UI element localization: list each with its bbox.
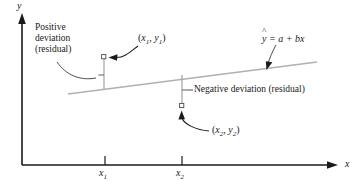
data-point-1-marker (102, 55, 106, 59)
hat-accent: ^ (262, 27, 266, 36)
point-1-close-paren: ) (162, 32, 165, 43)
equation-rest: = a + bx (266, 33, 304, 44)
positive-deviation-leader (57, 62, 96, 79)
positive-deviation-line-2: deviation (35, 33, 71, 44)
equation-leader (268, 45, 276, 63)
data-point-2-label: (x2, y2) (212, 124, 240, 138)
y-axis-arrowhead (18, 13, 26, 24)
tick-label-x2: x2 (176, 167, 184, 181)
tick-label-x1: x1 (99, 167, 107, 181)
x-axis-label: x (345, 158, 349, 170)
data-point-2-marker (180, 103, 184, 107)
positive-deviation-line-1: Positive (35, 22, 71, 33)
y-hat-symbol: ^y (262, 33, 266, 45)
tick-label-x1-sub: 1 (103, 173, 107, 181)
negative-deviation-annotation: Negative deviation (residual) (194, 84, 305, 95)
point-1-arrowhead (109, 54, 118, 61)
positive-deviation-annotation: Positive deviation (residual) (35, 22, 71, 56)
regression-equation-label: ^y = a + bx (262, 33, 304, 45)
x-axis-arrowhead (327, 161, 338, 169)
point-1-arrow (116, 46, 138, 58)
data-point-1-label: (x1, y1) (138, 32, 166, 46)
positive-deviation-line-3: (residual) (35, 44, 71, 55)
point-2-arrowhead (178, 111, 185, 120)
y-axis-label: y (17, 0, 21, 12)
point-2-close-paren: ) (236, 124, 239, 135)
tick-label-x2-sub: 2 (180, 173, 184, 181)
point-2-arrow (182, 118, 209, 131)
regression-residual-diagram: y x x1 x2 Positive deviation (residual) … (0, 0, 364, 192)
